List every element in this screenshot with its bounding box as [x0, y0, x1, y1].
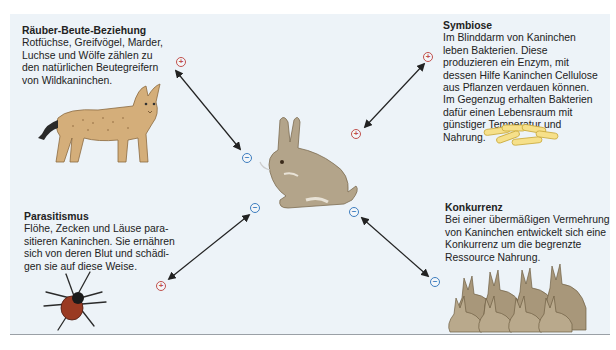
konkurrenz-arrow: [362, 218, 428, 276]
lynx-illustration: [28, 78, 168, 166]
bacteria-illustration: [482, 122, 562, 150]
konkurrenz-partner-sign: −: [430, 277, 440, 287]
tick-illustration: [36, 268, 112, 336]
parasitismus-arrow: [169, 215, 249, 279]
raeuber-beute-partner-sign: +: [176, 57, 186, 67]
rabbit-group-illustration: [442, 258, 592, 334]
symbiose-arrow: [365, 64, 424, 127]
rabbit-illustration: [248, 112, 368, 212]
bottom-divider: [10, 334, 610, 335]
parasitismus-partner-sign: +: [156, 281, 166, 291]
raeuber-beute-arrow: [176, 71, 240, 149]
symbiose-partner-sign: +: [423, 52, 433, 62]
